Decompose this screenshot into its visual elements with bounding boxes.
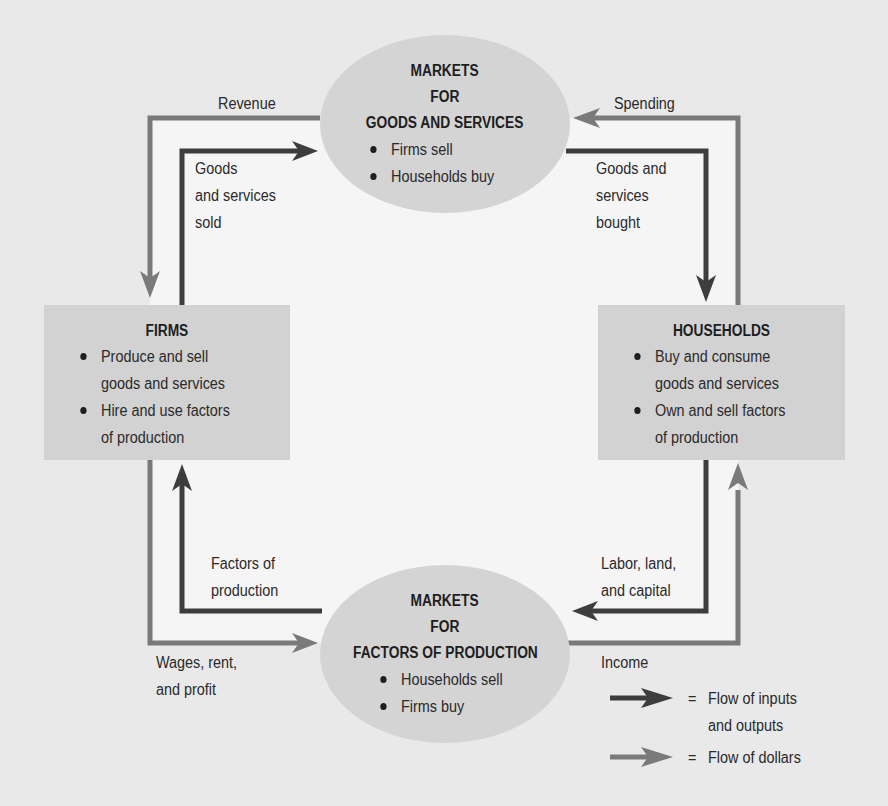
markets-factors-title-line3: FACTORS OF PRODUCTION: [353, 640, 538, 666]
label-revenue: Revenue: [218, 90, 276, 117]
bullet-item: Households sell: [374, 666, 503, 693]
firms-node: FIRMS Produce and sell goods and service…: [44, 305, 290, 460]
households-bullets: Buy and consume goods and services Own a…: [628, 343, 803, 451]
label-spending: Spending: [614, 90, 675, 117]
markets-goods-bullets: Firms sell Households buy: [364, 136, 509, 190]
markets-goods-title-line3: GOODS AND SERVICES: [366, 110, 524, 136]
legend-dark-arrow-icon: [610, 688, 673, 708]
markets-goods-title-line1: MARKETS: [411, 58, 479, 84]
circular-flow-diagram: MARKETS FOR GOODS AND SERVICES Firms sel…: [0, 0, 888, 806]
bullet-item: Own and sell factors of production: [628, 397, 785, 451]
legend-light-arrow-icon: [610, 747, 673, 767]
bullet-item: Firms buy: [374, 693, 503, 720]
markets-factors-title-line2: FOR: [430, 614, 459, 640]
legend-label: Flow of dollars: [708, 744, 801, 771]
label-wages-rent-profit: Wages, rent, and profit: [156, 649, 237, 703]
bullet-item: Produce and sell goods and services: [74, 343, 230, 397]
markets-goods-title-line2: FOR: [430, 84, 459, 110]
markets-factors-title-line1: MARKETS: [411, 588, 479, 614]
legend-equals: =: [688, 685, 706, 712]
label-factors-of-production: Factors of production: [211, 550, 278, 604]
label-labor-land-capital: Labor, land, and capital: [601, 550, 676, 604]
label-goods-services-sold: Goods and services sold: [195, 155, 276, 236]
bullet-item: Buy and consume goods and services: [628, 343, 785, 397]
markets-goods-services-node: MARKETS FOR GOODS AND SERVICES Firms sel…: [320, 35, 570, 213]
label-income: Income: [601, 649, 648, 676]
legend-item-inputs-outputs: = Flow of inputs and outputs: [688, 685, 807, 739]
markets-factors-bullets: Households sell Firms buy: [374, 666, 517, 720]
firms-bullets: Produce and sell goods and services Hire…: [74, 343, 247, 451]
legend-equals: =: [688, 744, 706, 771]
markets-factors-production-node: MARKETS FOR FACTORS OF PRODUCTION Househ…: [320, 565, 570, 743]
bullet-item: Firms sell: [364, 136, 494, 163]
legend-item-dollars: = Flow of dollars: [688, 744, 811, 771]
bullet-item: Hire and use factors of production: [74, 397, 230, 451]
households-node: HOUSEHOLDS Buy and consume goods and ser…: [598, 305, 845, 460]
legend-label: Flow of inputs and outputs: [708, 685, 797, 739]
label-goods-services-bought: Goods and services bought: [596, 155, 666, 236]
bullet-item: Households buy: [364, 163, 494, 190]
firms-title: FIRMS: [146, 319, 189, 343]
households-title: HOUSEHOLDS: [673, 319, 770, 343]
